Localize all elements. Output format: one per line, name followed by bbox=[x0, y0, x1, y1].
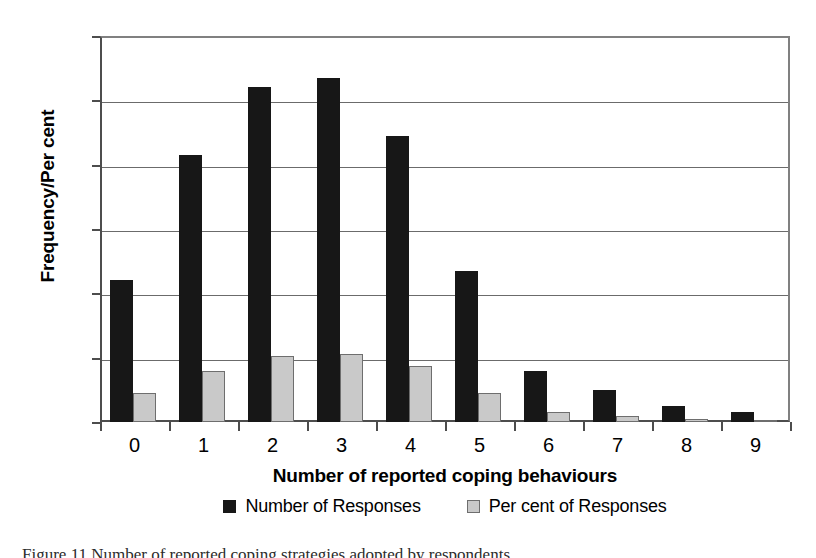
bar-group bbox=[514, 36, 583, 422]
x-tick-mark bbox=[238, 422, 240, 431]
x-tick-mark bbox=[721, 422, 723, 431]
x-tick-mark bbox=[376, 422, 378, 431]
bar-group bbox=[307, 36, 376, 422]
x-tick-label: 3 bbox=[317, 434, 367, 457]
legend-entry: Per cent of Responses bbox=[467, 496, 667, 517]
bar bbox=[386, 136, 409, 422]
y-axis-title: Frequency/Per cent bbox=[37, 86, 59, 306]
bar-group bbox=[238, 36, 307, 422]
figure-caption: Figure 11 Number of reported coping stra… bbox=[22, 545, 802, 558]
x-tick-mark bbox=[100, 422, 102, 431]
x-tick-label: 1 bbox=[179, 434, 229, 457]
legend-entry: Number of Responses bbox=[223, 496, 420, 517]
bar bbox=[202, 371, 225, 422]
y-tick-mark bbox=[92, 165, 100, 167]
y-tick-mark bbox=[92, 358, 100, 360]
bar bbox=[455, 271, 478, 422]
bar bbox=[662, 406, 685, 422]
x-tick-label: 6 bbox=[524, 434, 574, 457]
x-tick-mark bbox=[307, 422, 309, 431]
x-tick-label: 8 bbox=[662, 434, 712, 457]
bar bbox=[248, 87, 271, 422]
dark-square-icon bbox=[223, 500, 236, 513]
bar bbox=[524, 371, 547, 422]
chart-figure: Frequency/Per cent 020406080100120 01234… bbox=[0, 0, 816, 558]
bar bbox=[133, 393, 156, 422]
bar-group bbox=[652, 36, 721, 422]
x-tick-label: 2 bbox=[248, 434, 298, 457]
bar-group bbox=[721, 36, 790, 422]
y-tick-mark bbox=[92, 293, 100, 295]
x-tick-mark bbox=[169, 422, 171, 431]
x-axis-title: Number of reported coping behaviours bbox=[100, 465, 790, 487]
bar-group bbox=[100, 36, 169, 422]
x-tick-label: 4 bbox=[386, 434, 436, 457]
bar bbox=[478, 393, 501, 422]
bar bbox=[731, 412, 754, 422]
x-tick-mark bbox=[583, 422, 585, 431]
bar bbox=[271, 356, 294, 422]
bars-layer bbox=[100, 36, 790, 422]
y-tick-mark bbox=[92, 36, 100, 38]
chart-legend: Number of ResponsesPer cent of Responses bbox=[100, 496, 790, 517]
x-tick-mark bbox=[514, 422, 516, 431]
x-tick-mark bbox=[790, 422, 792, 431]
y-tick-mark bbox=[92, 229, 100, 231]
bar bbox=[593, 390, 616, 422]
bar bbox=[754, 420, 777, 422]
x-tick-label: 7 bbox=[593, 434, 643, 457]
legend-label: Per cent of Responses bbox=[489, 496, 667, 517]
y-tick-mark bbox=[92, 100, 100, 102]
bar bbox=[179, 155, 202, 422]
y-tick-mark bbox=[92, 422, 100, 424]
x-tick-label: 9 bbox=[731, 434, 781, 457]
bar bbox=[547, 412, 570, 422]
bar bbox=[685, 419, 708, 422]
light-square-icon bbox=[467, 500, 480, 513]
legend-label: Number of Responses bbox=[245, 496, 420, 517]
bar-group bbox=[376, 36, 445, 422]
x-tick-label: 5 bbox=[455, 434, 505, 457]
x-tick-mark bbox=[652, 422, 654, 431]
bar-group bbox=[445, 36, 514, 422]
bar bbox=[409, 366, 432, 422]
x-tick-label: 0 bbox=[110, 434, 160, 457]
x-tick-mark bbox=[445, 422, 447, 431]
bar-group bbox=[169, 36, 238, 422]
bar bbox=[110, 280, 133, 422]
bar bbox=[317, 78, 340, 422]
bar bbox=[340, 354, 363, 422]
bar-group bbox=[583, 36, 652, 422]
bar bbox=[616, 416, 639, 422]
